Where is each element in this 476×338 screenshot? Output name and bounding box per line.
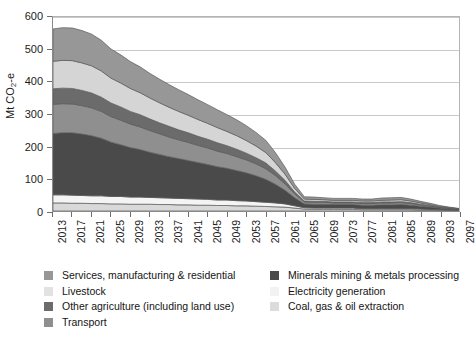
y-axis-title: Mt CO2-e [4, 50, 20, 142]
x-tick-label-2085: 2085 [406, 220, 417, 243]
x-tick-mark-2033 [149, 212, 150, 217]
legend-item-right-1[interactable]: Electricity generation [270, 284, 470, 300]
legend-label: Other agriculture (including land use) [62, 301, 234, 312]
legend-label: Services, manufacturing & residential [62, 270, 235, 281]
x-tick-mark-2013 [52, 212, 53, 217]
x-tick-mark-2017 [71, 212, 72, 217]
legend-swatch-icon [44, 271, 53, 280]
x-tick-mark-2077 [363, 212, 364, 217]
x-tick-mark-2093 [441, 212, 442, 217]
legend-column-right: Minerals mining & metals processingElect… [270, 268, 470, 315]
x-tick-mark-2025 [110, 212, 111, 217]
x-tick-label-2069: 2069 [329, 220, 340, 243]
x-tick-mark-2065 [305, 212, 306, 217]
x-tick-label-2041: 2041 [193, 220, 204, 243]
legend-label: Coal, gas & oil extraction [288, 301, 404, 312]
y-tick-label-0: 0 [37, 207, 43, 218]
x-tick-mark-2061 [285, 212, 286, 217]
legend-item-right-0[interactable]: Minerals mining & metals processing [270, 268, 470, 284]
legend-swatch-icon [44, 287, 53, 296]
y-tick-label-200: 200 [25, 141, 43, 152]
legend-item-left-0[interactable]: Services, manufacturing & residential [44, 268, 274, 284]
y-axis: Mt CO2-e 0100200300400500600 [0, 0, 52, 228]
x-tick-label-2045: 2045 [212, 220, 223, 243]
legend-label: Transport [62, 317, 107, 328]
legend-swatch-icon [270, 271, 279, 280]
x-tick-mark-2069 [324, 212, 325, 217]
legend-item-left-1[interactable]: Livestock [44, 284, 274, 300]
legend-swatch-icon [44, 302, 53, 311]
x-tick-mark-2029 [130, 212, 131, 217]
x-tick-mark-2085 [402, 212, 403, 217]
x-tick-label-2093: 2093 [445, 220, 456, 243]
legend-swatch-icon [44, 318, 53, 327]
stacked-area-series [53, 17, 459, 211]
legend-swatch-icon [270, 287, 279, 296]
legend-label: Electricity generation [288, 286, 385, 297]
x-tick-mark-2041 [188, 212, 189, 217]
x-tick-mark-2089 [421, 212, 422, 217]
x-tick-mark-2045 [207, 212, 208, 217]
x-tick-mark-2021 [91, 212, 92, 217]
y-tick-label-400: 400 [25, 76, 43, 87]
x-tick-label-2033: 2033 [154, 220, 165, 243]
x-tick-label-2049: 2049 [231, 220, 242, 243]
x-tick-label-2057: 2057 [270, 220, 281, 243]
x-tick-label-2073: 2073 [348, 220, 359, 243]
x-tick-label-2013: 2013 [57, 220, 68, 243]
legend-swatch-icon [270, 302, 279, 311]
chart-legend: Services, manufacturing & residentialLiv… [44, 268, 464, 330]
x-tick-mark-2081 [382, 212, 383, 217]
legend-item-right-2[interactable]: Coal, gas & oil extraction [270, 299, 470, 315]
x-tick-label-2053: 2053 [251, 220, 262, 243]
legend-column-left: Services, manufacturing & residentialLiv… [44, 268, 274, 330]
x-tick-label-2065: 2065 [309, 220, 320, 243]
legend-label: Minerals mining & metals processing [288, 270, 459, 281]
x-tick-mark-2073 [343, 212, 344, 217]
x-tick-label-2089: 2089 [426, 220, 437, 243]
x-tick-label-2025: 2025 [115, 220, 126, 243]
x-tick-label-2077: 2077 [367, 220, 378, 243]
x-tick-label-2037: 2037 [173, 220, 184, 243]
x-tick-label-2097: 2097 [465, 220, 476, 243]
x-tick-mark-2049 [227, 212, 228, 217]
legend-item-left-2[interactable]: Other agriculture (including land use) [44, 299, 274, 315]
x-axis: 2013201720212025202920332037204120452049… [52, 212, 460, 264]
legend-label: Livestock [62, 286, 106, 297]
legend-item-left-3[interactable]: Transport [44, 315, 274, 331]
x-tick-label-2061: 2061 [290, 220, 301, 243]
x-tick-mark-2057 [266, 212, 267, 217]
y-tick-label-600: 600 [25, 11, 43, 22]
x-tick-mark-2053 [246, 212, 247, 217]
x-tick-label-2021: 2021 [95, 220, 106, 243]
y-tick-label-300: 300 [25, 109, 43, 120]
plot-area [52, 16, 460, 212]
x-tick-label-2081: 2081 [387, 220, 398, 243]
x-tick-label-2029: 2029 [134, 220, 145, 243]
x-tick-mark-2037 [169, 212, 170, 217]
y-tick-label-500: 500 [25, 43, 43, 54]
y-tick-label-100: 100 [25, 174, 43, 185]
x-tick-mark-2097 [460, 212, 461, 217]
x-tick-label-2017: 2017 [76, 220, 87, 243]
